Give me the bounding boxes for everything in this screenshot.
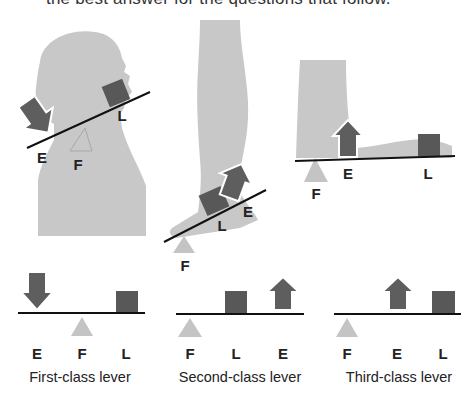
second-class-label-3: E bbox=[278, 346, 288, 361]
leg-effort-label: E bbox=[243, 204, 253, 219]
leg-load-label: L bbox=[217, 218, 226, 233]
arm-effort-label: E bbox=[343, 166, 353, 181]
second-class-label-2: L bbox=[231, 346, 240, 361]
first-class-diagram bbox=[18, 272, 145, 336]
third-class-label-2: E bbox=[392, 346, 402, 361]
leg-fulcrum-label: F bbox=[180, 258, 189, 273]
head-fulcrum-label: F bbox=[73, 157, 82, 172]
head-load-label: L bbox=[117, 108, 126, 123]
third-class-label-3: L bbox=[438, 346, 447, 361]
arm-load-box-icon bbox=[418, 134, 440, 156]
arm-fulcrum-label: F bbox=[311, 186, 320, 201]
arm-load-label: L bbox=[423, 166, 432, 181]
third-class-caption: Third-class lever bbox=[346, 370, 452, 385]
second-class-caption: Second-class lever bbox=[179, 370, 302, 385]
head-effort-label: E bbox=[37, 150, 47, 165]
lever-illustration bbox=[0, 0, 475, 395]
head-silhouette bbox=[36, 31, 146, 236]
second-class-diagram bbox=[176, 277, 304, 337]
second-class-label-1: F bbox=[185, 346, 194, 361]
third-class-diagram bbox=[334, 277, 461, 337]
first-class-label-2: F bbox=[77, 346, 86, 361]
first-class-caption: First-class lever bbox=[29, 370, 131, 385]
first-class-label-3: L bbox=[121, 346, 130, 361]
third-class-label-1: F bbox=[342, 346, 351, 361]
leg-fulcrum-icon bbox=[173, 236, 195, 253]
first-class-label-1: E bbox=[32, 346, 42, 361]
